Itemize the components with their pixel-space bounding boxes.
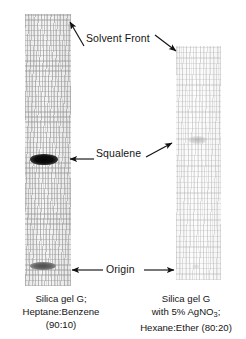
caption-right-line-1: Silica gel G [126,292,246,305]
caption-left-line-1: Silica gel G; [2,292,120,305]
origin-band-left-plate [30,262,56,270]
caption-right-line-2-pre: with 5% AgNO [152,306,214,317]
caption-left-line-3: (90:10) [2,318,120,331]
caption-right-line-3: Hexane:Ether (80:20) [126,321,246,334]
tlc-plate-left [25,14,71,286]
caption-left-plate: Silica gel G; Heptane:Benzene (90:10) [2,292,120,332]
label-solvent-front: Solvent Front [86,32,150,44]
arrow-solvent-front-right [155,35,176,51]
label-origin: Origin [106,263,135,275]
arrow-solvent-front-left [70,22,84,46]
arrow-squalene-right [146,143,172,157]
label-squalene: Squalene [96,147,141,159]
squalene-spot-right-plate [188,136,207,144]
caption-right-line-2: with 5% AgNO3; [126,305,246,321]
caption-left-line-2: Heptane:Benzene [2,305,120,318]
origin-spot-right-plate [192,264,200,269]
tlc-plate-right [176,46,221,280]
squalene-band-left-plate [30,154,58,165]
caption-right-line-2-post: ; [218,306,221,317]
caption-right-plate: Silica gel G with 5% AgNO3; Hexane:Ether… [126,292,246,335]
tlc-figure: Solvent Front Squalene Origin Silica gel… [0,0,246,339]
